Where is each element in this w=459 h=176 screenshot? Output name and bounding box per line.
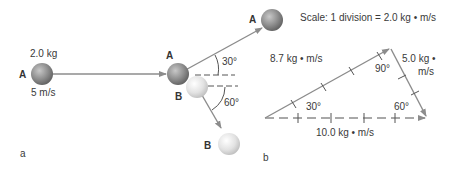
collision-diagram: A 2.0 kg 5 m/s 30° 60° A B A B a Scale: … bbox=[0, 0, 459, 176]
panel-b-label: b bbox=[263, 152, 269, 163]
angle-a-label: 30° bbox=[222, 56, 237, 67]
ball-a-before bbox=[31, 63, 53, 85]
ball-b-after-label: B bbox=[204, 140, 211, 151]
angle-b-label: 60° bbox=[224, 97, 239, 108]
angle-arc-a bbox=[215, 55, 219, 75]
mass-label: 2.0 kg bbox=[30, 48, 57, 59]
panel-b: Scale: 1 division = 2.0 kg • m/s 8.7 kg … bbox=[263, 12, 436, 163]
vector-b-ticks bbox=[398, 75, 419, 95]
ball-b-collision-label: B bbox=[175, 91, 182, 102]
ball-a-path bbox=[180, 28, 262, 73]
ball-a-label: A bbox=[19, 69, 26, 80]
panel-a-label: a bbox=[20, 148, 26, 159]
vector-b-label-line2: m/s bbox=[418, 66, 434, 77]
vector-b-label-line1: 5.0 kg • bbox=[402, 53, 436, 64]
angle-bottom-right-label: 60° bbox=[394, 101, 409, 112]
ball-b-collision bbox=[186, 76, 208, 98]
ball-a-after-label: A bbox=[249, 14, 256, 25]
ball-a-collision bbox=[167, 63, 189, 85]
angle-right-label: 90° bbox=[375, 63, 390, 74]
angle-left-label: 30° bbox=[306, 101, 321, 112]
ball-a-collision-label: A bbox=[166, 50, 173, 61]
scale-label: Scale: 1 division = 2.0 kg • m/s bbox=[300, 12, 436, 23]
vector-total-label: 10.0 kg • m/s bbox=[316, 127, 374, 138]
ball-a-after bbox=[261, 9, 283, 31]
velocity-label: 5 m/s bbox=[31, 87, 55, 98]
panel-a: A 2.0 kg 5 m/s 30° 60° A B A B a bbox=[19, 9, 283, 159]
ball-b-after bbox=[218, 133, 240, 155]
vector-a-label: 8.7 kg • m/s bbox=[270, 53, 322, 64]
